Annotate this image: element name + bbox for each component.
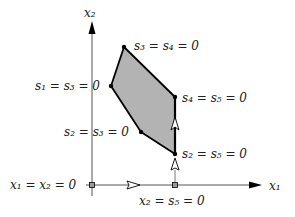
x-axis-label: x₁ xyxy=(269,179,281,193)
y-axis-label: x₂ xyxy=(84,6,96,20)
arrow-right-icon xyxy=(127,181,140,189)
y-axis-arrowhead xyxy=(89,21,96,34)
vertex-left-label: s₁ = s₃ = 0 xyxy=(35,79,100,93)
vertex-right xyxy=(173,95,177,99)
vertex-bottom-right xyxy=(173,152,177,156)
vertex-bottom-left xyxy=(139,130,143,134)
origin-point xyxy=(90,183,95,188)
arrow-up-icon xyxy=(171,158,179,170)
axis-point xyxy=(173,183,178,188)
simplex-diagram: x₂ x₁ x₁ = x₂ = 0 s₃ = s₄ = 0 s₁ = s₃ = … xyxy=(0,0,295,217)
vertex-top-label: s₃ = s₄ = 0 xyxy=(134,39,199,53)
vertex-right-label: s₄ = s₅ = 0 xyxy=(182,91,247,105)
vertex-bottom-left-label: s₂ = s₃ = 0 xyxy=(64,125,129,139)
vertex-bottom-right-label: s₂ = s₅ = 0 xyxy=(182,147,247,161)
x-axis-arrowhead xyxy=(249,182,262,189)
vertex-left xyxy=(109,84,113,88)
axis-point-label: x₂ = s₅ = 0 xyxy=(139,194,205,208)
vertex-top xyxy=(122,45,126,49)
origin-label: x₁ = x₂ = 0 xyxy=(10,178,76,192)
